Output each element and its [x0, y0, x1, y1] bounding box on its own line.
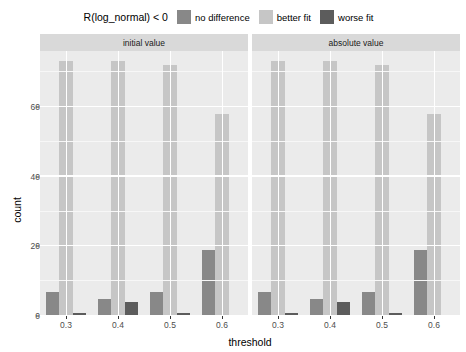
x-axis-tick-mark	[434, 316, 435, 319]
legend-entry-worse-fit: worse fit	[320, 10, 373, 24]
x-axis-tick-mark	[222, 316, 223, 319]
y-axis-tick-mark	[36, 246, 39, 247]
bars-absolute-value	[252, 51, 460, 316]
plot-area: count 0204060 initial value absolute val…	[0, 34, 466, 352]
y-axis: 0204060	[0, 34, 40, 352]
panel-absolute-value: absolute value	[252, 34, 460, 316]
gridline-minor	[252, 280, 460, 281]
x-axis-tick-mark	[118, 316, 119, 319]
gridline-major	[40, 245, 248, 246]
bar	[362, 292, 376, 316]
bar	[414, 250, 428, 316]
x-axis-tick-label: 0.5	[164, 320, 176, 330]
x-axis-tick-label: 0.3	[60, 320, 72, 330]
y-axis-tick-mark	[36, 316, 39, 317]
facet-panels: initial value absolute value	[40, 34, 460, 316]
legend-label-better-fit: better fit	[277, 12, 311, 23]
legend-key-worse-fit	[320, 10, 334, 24]
bar	[310, 299, 324, 316]
x-axis-tick-label: 0.3	[272, 320, 284, 330]
y-axis-tick-mark	[36, 106, 39, 107]
x-axis-tick-label: 0.6	[428, 320, 440, 330]
x-axis-tick-label: 0.4	[324, 320, 336, 330]
gridline-minor	[252, 141, 460, 142]
bar	[46, 292, 60, 316]
legend-key-no-difference	[177, 10, 191, 24]
x-axis-tick-mark	[278, 316, 279, 319]
legend: R(log_normal) < 0 no difference better f…	[0, 0, 466, 34]
x-axis-tick-mark	[66, 316, 67, 319]
gridline-major	[252, 245, 460, 246]
panel-body-initial-value	[40, 51, 248, 316]
gridline-major	[40, 175, 248, 176]
vertical-gridline	[330, 51, 331, 316]
vertical-gridline	[118, 51, 119, 316]
x-axis-tick-mark	[330, 316, 331, 319]
panel-body-absolute-value	[252, 51, 460, 316]
legend-label-no-difference: no difference	[195, 12, 250, 23]
bar	[150, 292, 164, 316]
gridline-major	[252, 106, 460, 107]
gridline-major	[40, 106, 248, 107]
x-axis-tick-mark	[170, 316, 171, 319]
x-axis-tick-mark	[382, 316, 383, 319]
gridline-minor	[252, 211, 460, 212]
gridline-minor	[40, 280, 248, 281]
bar	[98, 299, 112, 316]
legend-label-worse-fit: worse fit	[338, 12, 373, 23]
gridline-minor	[40, 71, 248, 72]
panel-title-initial-value: initial value	[40, 34, 248, 51]
vertical-gridline	[222, 51, 223, 316]
gridline-major	[252, 175, 460, 176]
legend-entry-better-fit: better fit	[259, 10, 311, 24]
bar	[202, 250, 216, 316]
bars-initial-value	[40, 51, 248, 316]
x-axis-tick-label: 0.6	[216, 320, 228, 330]
gridline-minor	[40, 211, 248, 212]
x-axis-title: threshold	[40, 336, 460, 348]
y-axis-tick-mark	[36, 176, 39, 177]
x-axis-tick-label: 0.5	[376, 320, 388, 330]
vertical-gridline	[66, 51, 67, 316]
vertical-gridline	[382, 51, 383, 316]
vertical-gridline	[434, 51, 435, 316]
legend-key-better-fit	[259, 10, 273, 24]
legend-entry-no-difference: no difference	[177, 10, 250, 24]
gridline-minor	[40, 141, 248, 142]
bar	[258, 292, 272, 316]
panel-initial-value: initial value	[40, 34, 248, 316]
panel-title-absolute-value: absolute value	[252, 34, 460, 51]
vertical-gridline	[170, 51, 171, 316]
gridline-minor	[252, 71, 460, 72]
vertical-gridline	[278, 51, 279, 316]
x-axis-tick-label: 0.4	[112, 320, 124, 330]
legend-title: R(log_normal) < 0	[84, 11, 168, 23]
